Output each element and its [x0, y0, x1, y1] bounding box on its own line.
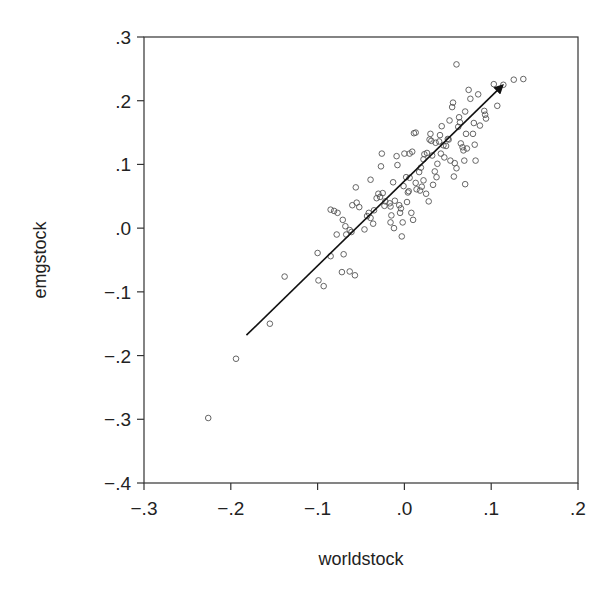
data-point [414, 186, 420, 192]
data-point [315, 250, 321, 256]
x-tick-label: −.1 [304, 498, 331, 519]
data-point [316, 278, 322, 284]
data-point [395, 162, 401, 168]
data-point [466, 87, 472, 93]
data-point [442, 155, 448, 161]
y-tick-label: .3 [115, 27, 131, 48]
data-point [394, 153, 400, 159]
data-point [428, 131, 434, 137]
data-point [463, 131, 469, 137]
data-point [341, 251, 347, 257]
data-point [468, 96, 474, 102]
data-point [461, 158, 467, 164]
data-point [321, 283, 327, 289]
data-point [328, 207, 334, 213]
data-point [267, 321, 273, 327]
data-point [462, 109, 468, 115]
x-tick-label: .0 [396, 498, 412, 519]
data-point [482, 112, 488, 118]
x-tick-label: .1 [483, 498, 499, 519]
data-point [473, 158, 479, 164]
data-point [347, 269, 353, 275]
y-tick-label: −.3 [104, 409, 131, 430]
x-tick-label: −.2 [217, 498, 244, 519]
data-point [421, 178, 427, 184]
data-point [483, 116, 489, 122]
data-point [390, 179, 396, 185]
data-point [389, 213, 395, 219]
y-tick-label: −.4 [104, 473, 131, 494]
data-point [423, 191, 429, 197]
data-point [399, 234, 405, 240]
data-point [451, 174, 457, 180]
data-point [400, 220, 406, 226]
data-point [491, 81, 497, 87]
data-point [409, 210, 415, 216]
y-axis-title: emgstock [30, 220, 50, 298]
data-point [370, 221, 376, 227]
data-point [282, 274, 288, 280]
data-point [334, 232, 340, 238]
data-point [410, 217, 416, 223]
data-point [368, 177, 374, 183]
data-point [447, 118, 453, 124]
data-point [339, 269, 345, 275]
data-point [340, 217, 346, 223]
data-point [454, 165, 460, 171]
data-point [494, 103, 500, 109]
data-point [432, 169, 438, 175]
data-point [233, 356, 239, 362]
y-tick-label: .1 [115, 154, 131, 175]
data-point [413, 180, 419, 186]
data-point [404, 199, 410, 205]
data-point [388, 204, 394, 210]
data-point [378, 164, 384, 170]
data-point [437, 132, 443, 138]
data-point [392, 198, 398, 204]
data-point [391, 225, 397, 231]
data-point [362, 227, 368, 233]
data-point [379, 151, 385, 157]
data-point [472, 142, 478, 148]
x-axis-title: worldstock [317, 549, 404, 569]
data-point [477, 123, 483, 129]
data-point [430, 182, 436, 188]
data-point [471, 120, 477, 126]
x-tick-label: .2 [570, 498, 586, 519]
scatter-chart: −.3−.2−.1.0.1.2 .3.2.1.0−.1−.2−.3−.4 wor… [0, 0, 616, 596]
x-axis-ticks: −.3−.2−.1.0.1.2 [131, 483, 586, 519]
data-point [356, 204, 362, 210]
data-point [462, 181, 468, 187]
data-point [521, 76, 527, 82]
y-tick-label: .2 [115, 91, 131, 112]
data-point [456, 114, 462, 120]
y-tick-label: −.2 [104, 346, 131, 367]
data-point [205, 415, 211, 421]
data-point [353, 185, 359, 191]
data-point [481, 108, 487, 114]
y-tick-label: .0 [115, 218, 131, 239]
scatter-points [205, 62, 526, 421]
x-tick-label: −.3 [131, 498, 158, 519]
data-point [352, 272, 358, 278]
data-point [435, 161, 441, 167]
data-point [388, 220, 394, 226]
plot-frame [144, 37, 578, 483]
data-point [470, 131, 476, 137]
regression-arrow [246, 85, 502, 335]
data-point [454, 62, 460, 68]
data-point [475, 92, 481, 98]
data-point [434, 174, 440, 180]
y-axis-ticks: .3.2.1.0−.1−.2−.3−.4 [104, 27, 144, 494]
data-point [426, 199, 432, 205]
data-point [511, 77, 517, 83]
data-point [439, 123, 445, 129]
y-tick-label: −.1 [104, 282, 131, 303]
